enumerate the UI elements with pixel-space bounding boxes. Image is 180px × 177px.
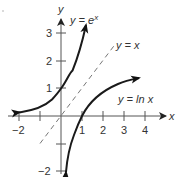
y-tick-label: 1 bbox=[46, 82, 52, 94]
log-curve-label: y = ln x bbox=[117, 93, 154, 105]
x-axis-label: x bbox=[168, 110, 175, 122]
x-tick-label: 1 bbox=[79, 124, 85, 136]
y-axis-label: y bbox=[57, 3, 65, 15]
exp-curve-label: y = ex bbox=[69, 13, 99, 26]
identity-line-label: y = x bbox=[115, 39, 140, 51]
y-tick-label: −2 bbox=[38, 165, 51, 177]
exp-curve bbox=[20, 25, 87, 112]
y-tick-label: 3 bbox=[46, 27, 52, 39]
x-tick-label: 4 bbox=[142, 124, 148, 136]
y-tick-label: 2 bbox=[46, 55, 52, 67]
x-tick-label: 3 bbox=[121, 124, 127, 136]
artifact-dot bbox=[2, 10, 3, 11]
x-tick-label: −2 bbox=[12, 124, 25, 136]
function-graph: −2 1 2 3 4 3 2 1 −2 x y y = x y = ex y =… bbox=[0, 0, 180, 177]
x-tick-label: 2 bbox=[100, 124, 106, 136]
